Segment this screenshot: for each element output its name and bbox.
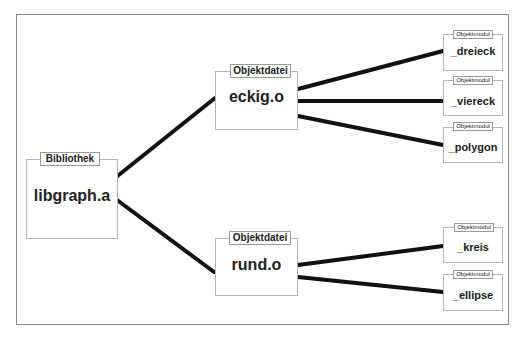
- library-node: libgraph.a: [26, 159, 118, 239]
- object-module-name: _ellipse: [444, 289, 502, 301]
- object-module-name: _polygon: [444, 141, 502, 153]
- object-file-tab: Objektdatei: [229, 231, 291, 245]
- edge-eckig-dreieck: [298, 51, 443, 89]
- object-module-node-dreieck: _dreieck: [443, 34, 503, 71]
- object-file-name: rund.o: [216, 256, 297, 274]
- object-module-tab: Objektmodul: [453, 30, 493, 39]
- object-file-node-eckig: eckig.o: [215, 71, 298, 130]
- object-module-tab: Objektmodul: [453, 270, 493, 279]
- edge-rund-kreis: [298, 246, 443, 265]
- object-module-tab: Objektmodul: [454, 223, 494, 232]
- object-file-tab: Objektdatei: [230, 64, 291, 78]
- object-file-node-rund: rund.o: [215, 238, 298, 296]
- object-module-name: _kreis: [444, 241, 502, 253]
- edge-libgraph-rund: [113, 197, 214, 272]
- object-file-name: eckig.o: [216, 88, 297, 106]
- object-module-node-kreis: _kreis: [443, 227, 503, 263]
- object-module-name: _viereck: [444, 95, 502, 107]
- object-module-tab: Objektmodul: [453, 122, 493, 131]
- object-module-node-polygon: _polygon: [443, 127, 503, 163]
- object-module-node-ellipse: _ellipse: [443, 274, 503, 311]
- object-module-tab: Objektmodul: [453, 76, 493, 85]
- object-module-node-viereck: _viereck: [443, 80, 503, 116]
- edge-eckig-polygon: [298, 116, 443, 145]
- object-module-name: _dreieck: [444, 45, 502, 57]
- edge-libgraph-eckig: [115, 98, 215, 178]
- library-tab: Bibliothek: [40, 152, 100, 166]
- library-name: libgraph.a: [27, 187, 117, 205]
- edge-rund-ellipse: [298, 277, 443, 292]
